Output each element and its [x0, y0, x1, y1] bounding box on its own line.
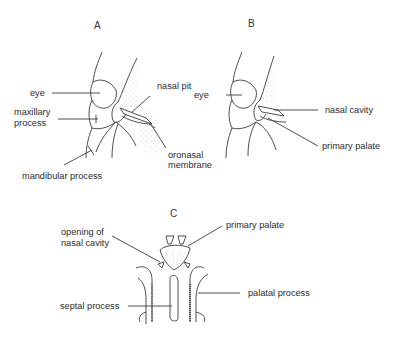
label-mandibular-process: mandibular process — [22, 171, 102, 181]
label-oronasal-line1: oronasal — [168, 150, 203, 160]
panel-letter-b: B — [248, 18, 255, 29]
label-maxillary-line2: process — [14, 118, 46, 128]
label-septal-process: septal process — [60, 301, 119, 311]
label-nasal-pit: nasal pit — [157, 81, 191, 91]
label-maxillary-line1: maxillary — [14, 107, 50, 117]
panel-c-drawing — [112, 226, 240, 324]
label-palatal-process: palatal process — [248, 288, 310, 298]
panel-letter-a: A — [94, 20, 101, 31]
label-primary-palate-b: primary palate — [322, 141, 380, 151]
label-eye-b: eye — [194, 90, 209, 100]
label-oronasal-line2: membrane — [168, 160, 212, 170]
panel-letter-c: C — [170, 208, 177, 219]
label-opening-line2: nasal cavity — [61, 238, 109, 248]
label-nasal-cavity: nasal cavity — [325, 105, 373, 115]
label-eye-a: eye — [30, 88, 45, 98]
panel-a-drawing — [52, 52, 166, 165]
label-opening-line1: opening of — [61, 227, 104, 237]
panel-b-drawing — [226, 52, 318, 158]
label-primary-palate-c: primary palate — [226, 220, 284, 230]
